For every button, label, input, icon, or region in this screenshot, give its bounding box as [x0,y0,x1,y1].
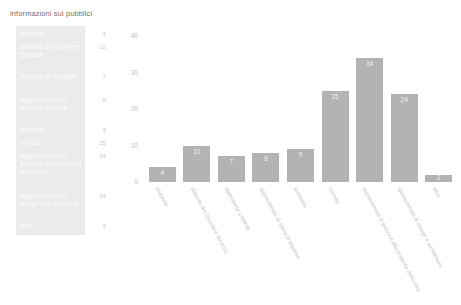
bar-value-label: 2 [425,174,452,181]
table-row-value: 7 [88,73,106,81]
x-axis-tick-label: appassionato di storia di impresa [258,186,301,260]
table-row-label: abitante del quartiere Bicocca [20,43,81,59]
bar: 2 [425,175,452,182]
page-title: informazioni sui pubblici [10,9,92,18]
bar-slot: 2 [425,36,452,182]
bar-value-label: 34 [356,60,383,67]
bar: 24 [391,94,418,182]
y-axis-tick-label: 0 [119,178,138,185]
table-row-value: 24 [88,192,106,200]
table-row-label: altro [20,222,81,230]
x-axis-tick-label: abitante del Quartiere Bicocca [189,186,229,254]
bar-slot: 4 [149,36,176,182]
table-row-value: 34 [88,152,106,160]
table-row-value: 9 [88,126,106,134]
plot-area: 403020100 4107892534242 studenteabitante… [145,36,456,182]
table-row-label: dipendente UNIMIB [20,73,81,81]
bar: 7 [218,156,245,182]
bar: 4 [149,167,176,182]
table-row-value: 25 [88,139,106,147]
x-axis-tick-label: appassionato di percorsi alla scoperta d… [362,186,422,292]
y-axis-tick-label: 20 [119,105,138,112]
bar: 8 [252,153,279,182]
bar-value-label: 9 [287,151,314,158]
table-row-value: 10 [88,43,106,51]
bar-value-label: 8 [252,155,279,162]
bar-slot: 9 [287,36,314,182]
bar-value-label: 25 [322,93,349,100]
y-axis-tick-label: 10 [119,142,138,149]
table-row-value: 8 [88,96,106,104]
bar-chart: 403020100 4107892534242 studenteabitante… [113,24,461,305]
y-axis-tick-label: 40 [119,32,138,39]
table-row-label: studente [20,30,81,38]
bar-value-label: 24 [391,96,418,103]
table-row-label: curioso [20,139,81,147]
x-axis-tick-label: curioso [328,186,342,204]
bar-slot: 8 [252,36,279,182]
x-axis-tick-label: studente [155,186,170,207]
bar: 10 [183,146,210,183]
x-axis-tick-label: altro [431,186,441,198]
table-row-label: architetto [20,126,81,134]
bar: 9 [287,149,314,182]
bar-slot: 10 [183,36,210,182]
y-axis-tick-label: 30 [119,69,138,76]
bar-slot: 34 [356,36,383,182]
table-row-value: 4 [88,30,106,38]
table-row-label: appassionato di storia di impresa [20,96,81,112]
bar-value-label: 10 [183,148,210,155]
table-row-value: 2 [88,222,106,230]
bar: 25 [322,91,349,182]
bar-value-label: 7 [218,158,245,165]
x-axis-tick-label: architetto [293,186,309,209]
x-axis-tick-label: dipendente UNIMIB [224,186,252,231]
bar-slot: 7 [218,36,245,182]
bar-slot: 24 [391,36,418,182]
bar-slot: 25 [322,36,349,182]
table-row-label: appassionato di design e architettura [20,192,81,208]
bar: 34 [356,58,383,182]
table-row-label: appassionato di percorsi alla scoperta d… [20,152,81,176]
bar-value-label: 4 [149,169,176,176]
